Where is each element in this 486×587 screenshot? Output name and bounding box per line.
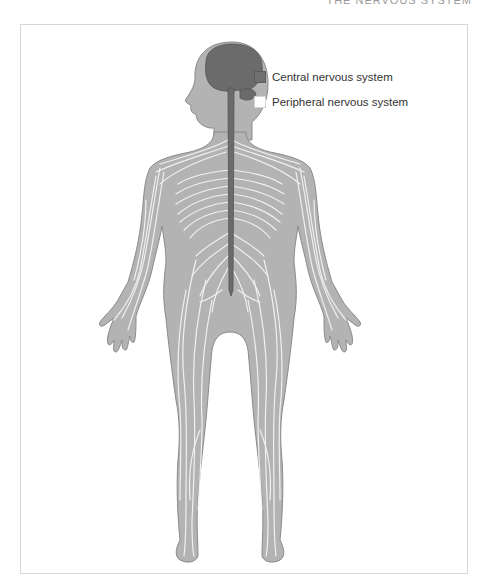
legend-item-pns: Peripheral nervous system [254,95,408,109]
legend-label: Central nervous system [272,71,393,83]
cns-swatch-icon [254,71,266,83]
legend-label: Peripheral nervous system [272,96,408,108]
legend: Central nervous system Peripheral nervou… [254,70,408,120]
spinal-cord [228,88,234,296]
legend-item-cns: Central nervous system [254,70,408,84]
pns-swatch-icon [254,96,266,108]
nervous-system-illustration [0,0,486,587]
